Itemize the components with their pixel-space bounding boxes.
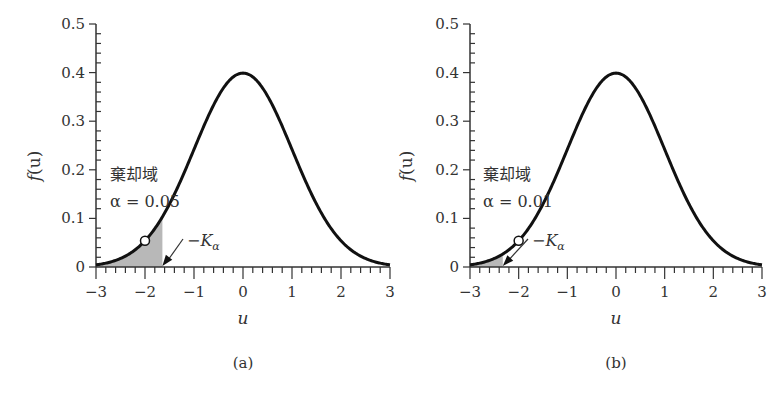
y-tick-label: 0.1 [61, 209, 85, 227]
k-alpha-label-b: −Kα [532, 231, 565, 253]
y-tick-label: 0.5 [435, 15, 459, 33]
x-tick-label: −1 [183, 283, 205, 301]
rejection-region-label-a: 棄却域 [110, 165, 158, 184]
figure: 00.10.20.30.40.5−3−2−10123 棄却域 α = 0.05 … [0, 0, 777, 393]
x-tick-label: −2 [508, 283, 530, 301]
y-tick-label: 0.4 [435, 64, 459, 82]
y-axis-title-b: f(u) [396, 151, 416, 184]
x-tick-label: −3 [459, 283, 481, 301]
y-tick-label: 0 [75, 258, 85, 276]
x-tick-label: −3 [85, 283, 107, 301]
y-tick-label: 0.5 [61, 15, 85, 33]
x-tick-label: 0 [611, 283, 621, 301]
x-tick-label: 3 [385, 283, 395, 301]
x-tick-label: 3 [757, 283, 767, 301]
x-axis-title-b: u [611, 308, 622, 328]
sub-label-a: (a) [233, 354, 254, 372]
y-tick-label: 0.1 [435, 209, 459, 227]
x-axis-title-a: u [238, 308, 249, 328]
y-tick-label: 0.3 [61, 112, 85, 130]
alpha-label-a: α = 0.05 [110, 192, 180, 211]
axes-a: 00.10.20.30.40.5−3−2−10123 [61, 15, 395, 301]
x-tick-label: −2 [134, 283, 156, 301]
y-tick-label: 0.3 [435, 112, 459, 130]
chart-panel-a: 00.10.20.30.40.5−3−2−10123 棄却域 α = 0.05 … [24, 15, 395, 372]
y-tick-label: 0.4 [61, 64, 85, 82]
x-tick-label: 2 [336, 283, 346, 301]
x-tick-label: −1 [556, 283, 578, 301]
rejection-region-shade-a [96, 217, 162, 267]
x-tick-label: 2 [709, 283, 719, 301]
chart-panel-b: 00.10.20.30.40.5−3−2−10123 棄却域 α = 0.01 … [396, 15, 767, 372]
y-tick-label: 0.2 [61, 161, 85, 179]
sub-label-b: (b) [605, 354, 626, 372]
x-tick-label: 1 [287, 283, 297, 301]
y-tick-label: 0 [449, 258, 459, 276]
x-tick-label: 1 [660, 283, 670, 301]
y-tick-label: 0.2 [435, 161, 459, 179]
alpha-label-b: α = 0.01 [483, 192, 553, 211]
axes-b: 00.10.20.30.40.5−3−2−10123 [435, 15, 767, 301]
k-alpha-arrow-a [162, 239, 183, 266]
marker-circle-b [514, 236, 523, 245]
x-tick-label: 0 [238, 283, 248, 301]
marker-circle-a [141, 236, 150, 245]
k-alpha-label-a: −Kα [187, 231, 220, 253]
y-axis-title-a: f(u) [24, 151, 44, 184]
rejection-region-label-b: 棄却域 [483, 165, 531, 184]
